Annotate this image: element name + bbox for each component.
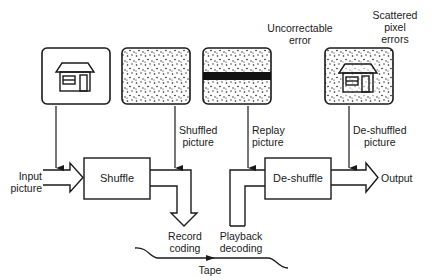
input-hollow-arrow: [43, 163, 83, 192]
deshuffled-picture-label: De-shuffled picture: [353, 124, 407, 148]
tape-label: Tape: [190, 264, 230, 276]
deshuffled-line1: De-shuffled: [353, 124, 407, 136]
scattered-errors-label: Scattered pixel errors: [360, 9, 430, 45]
scattered-line1: Scattered: [360, 9, 430, 21]
playback-decoding-label: Playback decoding: [212, 230, 270, 254]
shuffled-picture-frame: [122, 48, 190, 104]
input-line2: picture: [0, 182, 42, 194]
uncorrectable-line2: error: [252, 34, 348, 46]
uncorrectable-line1: Uncorrectable: [252, 22, 348, 34]
shuffled-line2: picture: [179, 136, 217, 148]
playback-line2: decoding: [212, 242, 270, 254]
record-line2: coding: [160, 242, 210, 254]
replay-line2: picture: [252, 136, 285, 148]
shuffled-line1: Shuffled: [179, 124, 217, 136]
input-line1: Input: [0, 170, 42, 182]
replay-picture-label: Replay picture: [252, 124, 285, 148]
input-picture-frame: [42, 48, 110, 104]
playback-hollow-path: [230, 170, 265, 226]
playback-line1: Playback: [212, 230, 270, 242]
shuffle-block-label: Shuffle: [84, 172, 150, 185]
output-hollow-arrow: [331, 163, 378, 192]
tape-direction-arrow: [206, 255, 215, 261]
shuffled-picture-label: Shuffled picture: [179, 124, 217, 148]
record-hollow-arrow: [150, 170, 197, 226]
deshuffled-picture-frame: [325, 48, 393, 104]
replay-picture-frame: [203, 48, 271, 104]
scattered-line2: pixel: [360, 21, 430, 33]
input-picture-label: Input picture: [0, 170, 42, 194]
uncorrectable-label: Uncorrectable error: [252, 22, 348, 46]
deshuffled-line2: picture: [353, 136, 407, 148]
error-band: [203, 72, 271, 80]
record-line1: Record: [160, 230, 210, 242]
deshuffle-block-label: De-shuffle: [265, 172, 331, 185]
scattered-line3: errors: [360, 33, 430, 45]
output-label: Output: [381, 172, 413, 184]
replay-line1: Replay: [252, 124, 285, 136]
record-coding-label: Record coding: [160, 230, 210, 254]
